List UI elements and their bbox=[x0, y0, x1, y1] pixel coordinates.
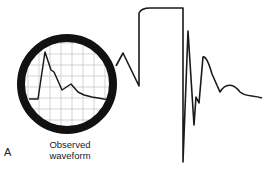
square-wave-trace bbox=[116, 8, 262, 162]
caption: Observed waveform bbox=[42, 139, 98, 161]
panel-label: A bbox=[4, 146, 11, 158]
caption-line-2: waveform bbox=[42, 150, 98, 161]
magnifier-ring bbox=[21, 38, 113, 130]
caption-line-1: Observed bbox=[42, 139, 98, 150]
